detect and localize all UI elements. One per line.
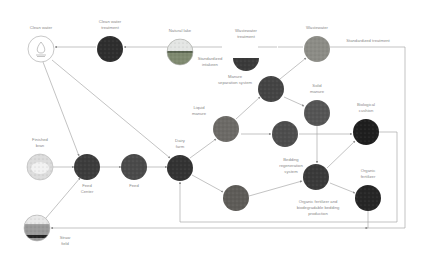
node-finished-bran <box>27 154 53 180</box>
label-clean-water-treatment: Clean watertreatment <box>99 19 121 31</box>
edge-bedding_regeneration-to-organic_fertilizer <box>330 183 355 193</box>
label-wastewater: Wastewater <box>306 25 328 31</box>
label-line: manure <box>192 111 206 117</box>
label-line: bran <box>32 143 48 149</box>
label-natural-lake: Natural lake <box>169 28 191 34</box>
edge-clean_water-to-dairy_farm <box>52 60 170 158</box>
label-line: fertilizer <box>361 174 376 180</box>
label-line: Center <box>81 189 94 195</box>
label-line: cushion <box>357 108 375 114</box>
label-line: system <box>279 169 303 175</box>
label-liquid-manure: Liquidmanure <box>192 105 206 117</box>
node-manure-separation <box>258 76 284 102</box>
label-line: farm <box>175 144 185 150</box>
node-natural-lake <box>167 39 193 65</box>
node-dairy-farm <box>167 155 193 181</box>
edge-clean_water-to-feed_center <box>43 62 79 156</box>
label-bedding-production: Organic fertilizer andbiodegradable bedd… <box>297 199 340 217</box>
label-clean-water: Clean water <box>30 25 52 31</box>
edge-straw_field-to-feed_center <box>46 178 80 218</box>
node-feed-center <box>74 154 100 180</box>
node-clean-water <box>28 36 54 62</box>
label-biological-cushion: Biologicalcushion <box>357 102 375 114</box>
label-line: separation system <box>218 80 252 86</box>
node-solid-manure <box>304 100 330 126</box>
node-straw-field <box>24 215 50 241</box>
label-straw-field: Strawfield <box>60 235 71 247</box>
label-line: production <box>297 211 340 217</box>
edge-compost-to-bedding_regeneration <box>249 181 302 196</box>
label-dairy-farm: Dairyfarm <box>175 138 185 150</box>
label-finished-bran: Finishedbran <box>32 137 48 149</box>
label-line: Natural lake <box>169 28 191 34</box>
label-standardized-treatment: Standardized treatment <box>346 38 390 44</box>
label-line: treatment <box>235 34 257 40</box>
edge-manure_separation-to-wastewater <box>280 58 306 79</box>
edge-liquid_manure-to-manure_separation <box>236 97 260 119</box>
node-wastewater <box>304 36 330 62</box>
label-line: Wastewater <box>306 25 328 31</box>
label-line: Standardized treatment <box>346 38 390 44</box>
label-solid-manure: Solidmanure <box>310 83 324 95</box>
edge-bedding_regeneration-to-biological_cushion <box>327 141 355 168</box>
node-liquid-manure <box>213 116 239 142</box>
label-organic-fertilizer: Organicfertilizer <box>361 168 376 180</box>
node-feed <box>121 154 147 180</box>
edge-dairy_farm-to-liquid_manure <box>190 139 216 158</box>
node-clean-water-treatment <box>97 36 123 62</box>
node-bedding-recycle <box>272 121 298 147</box>
label-manure-separation: Manureseparation system <box>218 74 252 86</box>
label-line: treatment <box>99 25 121 31</box>
label-wastewater-treatment: Wastewatertreatment <box>235 28 257 40</box>
node-wastewater-treatment <box>233 58 259 71</box>
label-feed: Feed <box>129 183 139 189</box>
label-line: Clean water <box>30 25 52 31</box>
label-bedding-regeneration: Beddingregenerationsystem <box>279 157 303 175</box>
edge-dairy_farm-to-compost <box>192 175 223 192</box>
node-organic-fertilizer <box>355 185 381 211</box>
label-standardized-intake: Standardizedintakeen <box>198 56 223 68</box>
label-line: Feed <box>129 183 139 189</box>
label-line: manure <box>310 89 324 95</box>
label-line: intakeen <box>198 62 223 68</box>
label-feed-center: FeedCenter <box>81 183 94 195</box>
node-compost <box>223 185 249 211</box>
node-biological-cushion <box>353 119 379 145</box>
edge-manure_separation-to-solid_manure <box>284 97 304 106</box>
label-line: field <box>60 241 71 247</box>
node-bedding-regeneration <box>303 164 329 190</box>
